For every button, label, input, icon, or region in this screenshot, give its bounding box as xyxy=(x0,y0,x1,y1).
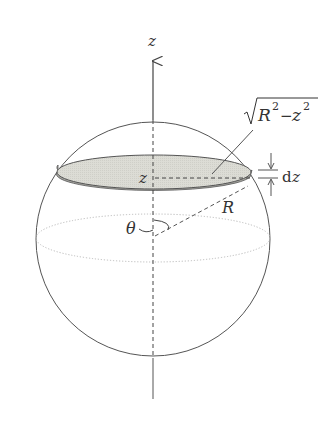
sqrt-minus: − xyxy=(280,107,293,125)
theta-pointer xyxy=(139,229,153,232)
sqrt-z-exp: 2 xyxy=(303,100,310,113)
radius-label: R xyxy=(221,198,234,217)
sqrt-z: z xyxy=(291,105,302,125)
sqrt-R-exp: 2 xyxy=(272,100,279,113)
slice-disc xyxy=(57,155,251,189)
dz-z: z xyxy=(291,168,300,186)
sqrt-R: R xyxy=(257,105,271,125)
z-axis-label: z xyxy=(147,32,156,50)
diagram-svg: z z R 2 − z 2 d z R θ xyxy=(0,0,336,424)
slice-height-label: z xyxy=(138,169,147,187)
theta-arc xyxy=(154,220,169,230)
sphere-diagram: z z R 2 − z 2 d z R θ xyxy=(0,0,336,424)
theta-label: θ xyxy=(126,219,136,238)
dz-d: d xyxy=(282,168,292,186)
